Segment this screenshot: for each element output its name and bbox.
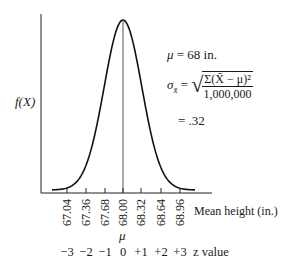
z-value-label: −1 bbox=[98, 245, 111, 259]
z-value-label: −2 bbox=[79, 245, 92, 259]
z-value-label: 0 bbox=[120, 245, 126, 259]
normal-distribution-chart: 67.0467.3667.6868.0068.3268.6468.96 f(X)… bbox=[0, 0, 292, 267]
square-root: √ Σ(X̄ − μ)² 1,000,000 bbox=[191, 71, 253, 101]
mu-value: = 68 in. bbox=[174, 47, 217, 62]
x-tick-label: 68.96 bbox=[173, 199, 187, 226]
x-tick-label: 68.00 bbox=[116, 199, 130, 226]
denominator: 1,000,000 bbox=[202, 87, 252, 101]
z-value-labels: −3−2−10+1+2+3 bbox=[60, 245, 186, 259]
x-tick-label: 67.68 bbox=[98, 199, 112, 226]
x-tick-label: 67.36 bbox=[79, 199, 93, 226]
x-ticks bbox=[67, 188, 180, 193]
numerator: Σ(X̄ − μ)² bbox=[202, 72, 252, 87]
equals-sign: = bbox=[177, 77, 188, 92]
fraction: Σ(X̄ − μ)² 1,000,000 bbox=[202, 72, 252, 101]
x-tick-labels: 67.0467.3667.6868.0068.3268.6468.96 bbox=[60, 199, 187, 226]
x-axis-label: Mean height (in.) bbox=[194, 204, 278, 218]
x-tick-label: 68.32 bbox=[134, 199, 148, 226]
mu-marker-label: μ bbox=[118, 228, 126, 243]
z-value-label: +3 bbox=[173, 245, 186, 259]
x-tick-label: 67.04 bbox=[60, 199, 74, 226]
z-value-label: −3 bbox=[60, 245, 73, 259]
mean-annotation: μ = 68 in. bbox=[167, 47, 217, 63]
y-axis-label: f(X) bbox=[15, 94, 35, 109]
x-tick-label: 68.64 bbox=[154, 199, 168, 226]
z-value-label: +1 bbox=[134, 245, 147, 259]
std-error-result: = .32 bbox=[178, 113, 205, 129]
std-error-formula: σx̄ = √ Σ(X̄ − μ)² 1,000,000 bbox=[167, 71, 253, 101]
z-value-label: +2 bbox=[154, 245, 167, 259]
z-axis-label: z value bbox=[193, 245, 229, 259]
